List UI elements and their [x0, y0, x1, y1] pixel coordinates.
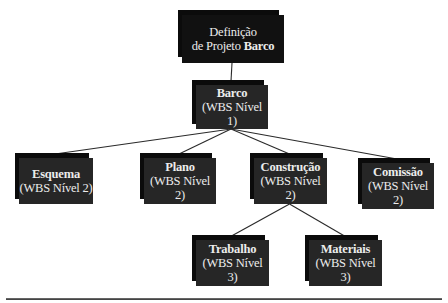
node-title: Plano	[165, 160, 195, 174]
connector-root-barco	[231, 63, 232, 81]
node-subtitle: (WBS Nível 2)	[362, 179, 434, 207]
node-box: Construção (WBS Nível 2)	[254, 158, 327, 204]
node-title: Comissão	[373, 165, 423, 179]
node-construcao: Construção (WBS Nível 2)	[250, 153, 327, 204]
node-box: Plano (WBS Nível 2)	[144, 158, 216, 204]
root-line2: de Projeto Barco	[192, 39, 275, 53]
node-box: Esquema (WBS Nível 2)	[19, 158, 93, 204]
node-title: Barco	[217, 86, 248, 100]
node-barco: Barco (WBS Nível 1)	[192, 80, 268, 129]
root-line1: Definição	[209, 25, 256, 39]
node-subtitle: (WBS Nível 1)	[196, 100, 268, 128]
connector-construcao-materiais	[290, 204, 345, 236]
node-subtitle: (WBS Nível 3)	[309, 256, 382, 284]
node-esquema: Esquema (WBS Nível 2)	[15, 153, 93, 204]
node-box: Trabalho (WBS Nível 3)	[196, 240, 269, 286]
connector-barco-construcao	[231, 129, 290, 154]
node-comissao: Comissão (WBS Nível 2)	[358, 158, 434, 209]
connector-construcao-trabalho	[232, 204, 290, 236]
node-subtitle: (WBS Nível 2)	[254, 174, 327, 202]
node-subtitle: (WBS Nível 2)	[19, 181, 92, 195]
node-materiais: Materiais (WBS Nível 3)	[305, 235, 382, 286]
node-title: Materiais	[321, 242, 371, 256]
node-plano: Plano (WBS Nível 2)	[140, 153, 216, 204]
root-line2-text: de Projeto	[192, 39, 244, 53]
node-title: Esquema	[32, 167, 80, 181]
root-node-project-definition: Definição de Projeto Barco	[178, 10, 284, 63]
node-box: Definição de Projeto Barco	[182, 15, 284, 63]
node-subtitle: (WBS Nível 2)	[144, 174, 216, 202]
node-trabalho: Trabalho (WBS Nível 3)	[192, 235, 269, 286]
node-box: Materiais (WBS Nível 3)	[309, 240, 382, 286]
node-title: Trabalho	[209, 242, 257, 256]
wbs-diagram: Definição de Projeto Barco Barco (WBS Ní…	[0, 0, 448, 303]
node-title: Construção	[261, 160, 321, 174]
node-box: Comissão (WBS Nível 2)	[362, 163, 434, 209]
root-line2-bold: Barco	[244, 39, 275, 53]
node-box: Barco (WBS Nível 1)	[196, 85, 268, 129]
node-subtitle: (WBS Nível 3)	[196, 256, 269, 284]
bottom-rule	[6, 298, 442, 300]
